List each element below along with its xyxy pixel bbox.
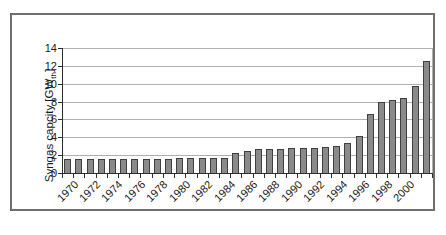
bar-1973 <box>98 159 105 173</box>
x-tick-boundary-0 <box>62 174 63 178</box>
bar-1978 <box>154 159 161 173</box>
bar-1979 <box>165 159 172 173</box>
x-tick-boundary-18 <box>264 174 265 178</box>
y-tick-6 <box>58 119 62 120</box>
y-tick-label-8: 8 <box>31 96 57 108</box>
y-tick-label-0: 0 <box>31 167 57 179</box>
bar-1974 <box>109 159 116 173</box>
x-tick-boundary-33 <box>432 174 433 178</box>
x-tick-boundary-3 <box>96 174 97 178</box>
x-tick-boundary-6 <box>129 174 130 178</box>
x-tick-boundary-25 <box>342 174 343 178</box>
figure-canvas: { "chart_data": { "type": "bar", "title"… <box>0 0 446 235</box>
x-tick-boundary-11 <box>185 174 186 178</box>
y-tick-label-4: 4 <box>31 131 57 143</box>
gridline-y-6 <box>62 119 432 120</box>
bar-1997 <box>367 114 374 173</box>
y-tick-2 <box>58 155 62 156</box>
bar-1999 <box>389 100 396 173</box>
bar-1983 <box>210 158 217 173</box>
x-tick-boundary-14 <box>219 174 220 178</box>
bar-1998 <box>378 102 385 173</box>
bar-1977 <box>143 159 150 173</box>
bar-1996 <box>356 136 363 174</box>
bar-1971 <box>75 159 82 173</box>
gridline-y-10 <box>62 84 432 85</box>
y-tick-label-10: 10 <box>31 78 57 90</box>
x-tick-boundary-15 <box>230 174 231 178</box>
bar-1985 <box>232 153 239 173</box>
plot-right-border <box>432 48 433 173</box>
y-tick-label-2: 2 <box>31 149 57 161</box>
y-tick-label-6: 6 <box>31 113 57 125</box>
bar-1994 <box>333 146 340 173</box>
bar-2000 <box>400 98 407 173</box>
bar-1984 <box>221 158 228 173</box>
x-tick-boundary-24 <box>331 174 332 178</box>
bar-1975 <box>120 159 127 173</box>
x-tick-boundary-30 <box>398 174 399 178</box>
bar-1986 <box>244 151 251 173</box>
x-tick-boundary-32 <box>421 174 422 178</box>
x-tick-boundary-4 <box>107 174 108 178</box>
x-tick-boundary-26 <box>354 174 355 178</box>
bar-1992 <box>311 148 318 173</box>
x-tick-boundary-22 <box>309 174 310 178</box>
bar-2001 <box>412 86 419 174</box>
x-tick-boundary-1 <box>73 174 74 178</box>
bar-1981 <box>187 158 194 173</box>
gridline-y-12 <box>62 66 432 67</box>
y-tick-label-14: 14 <box>31 42 57 54</box>
x-tick-boundary-10 <box>174 174 175 178</box>
x-tick-boundary-7 <box>140 174 141 178</box>
x-tick-boundary-27 <box>365 174 366 178</box>
gridline-y-14 <box>62 48 432 49</box>
y-tick-10 <box>58 84 62 85</box>
bar-1987 <box>255 149 262 173</box>
bar-2002 <box>423 61 430 174</box>
x-tick-boundary-19 <box>275 174 276 178</box>
x-tick-boundary-8 <box>152 174 153 178</box>
x-tick-boundary-16 <box>241 174 242 178</box>
y-tick-label-12: 12 <box>31 60 57 72</box>
bar-1990 <box>288 148 295 173</box>
y-axis-line <box>62 48 63 174</box>
y-tick-4 <box>58 137 62 138</box>
plot-area <box>62 48 432 173</box>
bar-1988 <box>266 149 273 173</box>
bar-1970 <box>64 159 71 173</box>
x-tick-boundary-31 <box>410 174 411 178</box>
x-tick-boundary-13 <box>208 174 209 178</box>
gridline-y-8 <box>62 102 432 103</box>
x-tick-boundary-23 <box>320 174 321 178</box>
y-tick-14 <box>58 48 62 49</box>
bar-1995 <box>344 143 351 173</box>
x-tick-boundary-29 <box>387 174 388 178</box>
y-tick-12 <box>58 66 62 67</box>
bar-1989 <box>277 149 284 173</box>
gridline-y-4 <box>62 137 432 138</box>
x-tick-boundary-20 <box>286 174 287 178</box>
x-tick-boundary-12 <box>197 174 198 178</box>
bar-1993 <box>322 147 329 173</box>
y-tick-8 <box>58 102 62 103</box>
x-tick-boundary-5 <box>118 174 119 178</box>
bar-1972 <box>87 159 94 173</box>
x-tick-boundary-17 <box>253 174 254 178</box>
x-tick-boundary-2 <box>84 174 85 178</box>
x-tick-boundary-21 <box>297 174 298 178</box>
bar-1976 <box>131 159 138 173</box>
bar-1991 <box>300 148 307 173</box>
x-tick-boundary-9 <box>163 174 164 178</box>
x-tick-boundary-28 <box>376 174 377 178</box>
bar-1982 <box>199 158 206 173</box>
bar-1980 <box>176 158 183 173</box>
